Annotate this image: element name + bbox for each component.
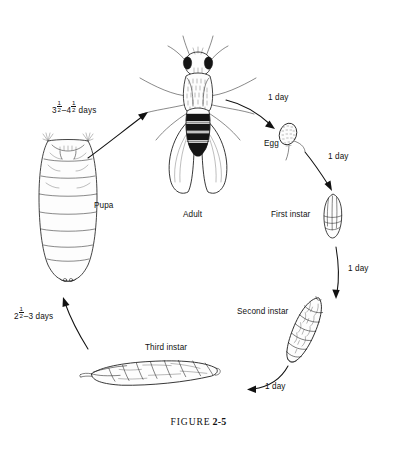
duration-label-third-instar-to-pupa: 212–3 days [14,306,53,321]
duration-whole-part: 2 [14,312,19,321]
figure-caption-word: FIGURE [171,416,211,427]
duration-whole-part-a: 3 [52,106,57,115]
arrow-first-to-second-instar [332,247,339,299]
arrow-adult-to-egg [226,100,275,129]
duration-label-second-to-third-instar: 1 day [265,383,286,392]
duration-label-pupa-to-adult: 312–412 days [52,100,96,115]
life-cycle-diagram [0,0,397,451]
duration-label-egg-to-first-instar: 1 day [328,153,349,162]
first-instar-larva-icon [324,194,342,238]
egg-icon [277,121,305,160]
arrow-pupa-to-adult [88,112,148,158]
stage-label-second-instar: Second instar [237,308,288,317]
duration-label-adult-to-egg: 1 day [268,94,289,103]
second-instar-larva-icon [281,293,329,366]
figure-caption-number: 2-5 [213,416,227,427]
stage-label-egg: Egg [264,140,279,149]
stage-label-third-instar: Third instar [145,344,187,353]
pupa-icon [39,133,97,282]
figure-caption: FIGURE2-5 [0,416,397,427]
duration-label-first-to-second-instar: 1 day [348,265,369,274]
stage-label-adult: Adult [183,211,202,220]
figure-drosophila-life-cycle: Adult Egg First instar Second instar Thi… [0,0,397,451]
stage-label-first-instar: First instar [271,211,310,220]
third-instar-larva-icon [79,349,221,397]
duration-tail-part: –3 days [24,312,53,321]
arrow-third-instar-to-pupa [63,297,89,349]
adult-fly-icon [140,36,256,193]
duration-tail-part-b: days [76,106,96,115]
stage-label-pupa: Pupa [94,202,114,211]
duration-whole-part-b: 4 [66,106,71,115]
